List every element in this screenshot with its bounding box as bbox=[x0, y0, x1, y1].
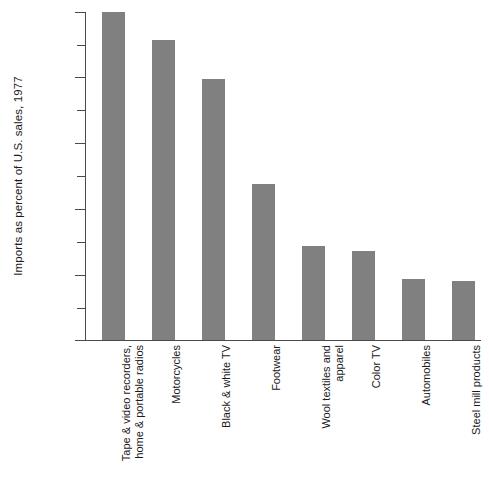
category-label-5: Wool textiles andapparel bbox=[320, 345, 345, 477]
y-tick-40 bbox=[75, 209, 85, 210]
y-axis-title: Imports as percent of U.S. sales, 1977 bbox=[8, 0, 28, 352]
bar-7 bbox=[402, 279, 425, 340]
category-label-8: Steel mill products bbox=[470, 345, 483, 477]
category-label-3: Black & white TV bbox=[220, 345, 233, 477]
category-label-4: Footwear bbox=[270, 345, 283, 477]
category-label-7: Automobiles bbox=[420, 345, 433, 477]
y-tick-0 bbox=[75, 340, 85, 341]
y-tick-50 bbox=[77, 176, 85, 177]
y-tick-90 bbox=[77, 45, 85, 46]
category-label-6: Color TV bbox=[370, 345, 383, 477]
bar-3 bbox=[202, 79, 225, 340]
bar-chart-figure: Imports as percent of U.S. sales, 1977 1… bbox=[0, 0, 489, 494]
category-label-1: Tape & video recorders,home & portable r… bbox=[120, 345, 145, 477]
x-axis-line bbox=[85, 340, 481, 341]
y-axis-line bbox=[85, 12, 86, 341]
bar-8 bbox=[452, 281, 475, 340]
bar-4 bbox=[252, 184, 275, 340]
bar-2 bbox=[152, 40, 175, 340]
bar-6 bbox=[352, 251, 375, 340]
y-tick-100 bbox=[75, 12, 85, 13]
y-tick-20 bbox=[75, 275, 85, 276]
y-tick-80 bbox=[75, 77, 85, 78]
y-tick-60 bbox=[75, 143, 85, 144]
bar-5 bbox=[302, 246, 325, 340]
bar-1 bbox=[102, 12, 125, 340]
category-label-2: Motorcycles bbox=[170, 345, 183, 477]
y-tick-30 bbox=[77, 242, 85, 243]
y-tick-10 bbox=[77, 308, 85, 309]
y-tick-70 bbox=[77, 110, 85, 111]
